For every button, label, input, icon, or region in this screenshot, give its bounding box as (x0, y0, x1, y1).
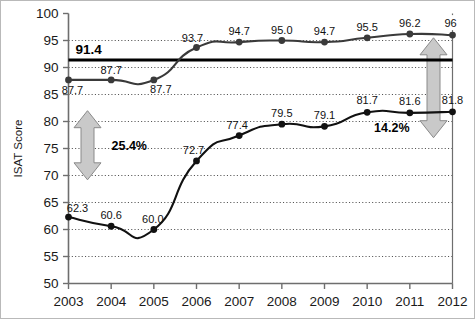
data-point (449, 108, 456, 115)
point-value-label: 96 (444, 17, 456, 29)
data-point (150, 226, 157, 233)
point-value-label: 60.6 (100, 209, 121, 221)
x-axis-tick-label: 2010 (352, 294, 382, 309)
x-axis-tick-label: 2007 (224, 294, 254, 309)
point-value-label: 77.4 (226, 119, 247, 131)
point-value-label: 95.0 (271, 24, 292, 36)
data-point (321, 123, 328, 130)
point-value-label: 96.2 (399, 17, 420, 29)
data-point (364, 34, 371, 41)
data-point (406, 109, 413, 116)
y-axis-tick-label: 65 (43, 195, 58, 210)
point-value-label: 94.7 (314, 25, 335, 37)
data-point (193, 44, 200, 51)
point-value-label: 62.3 (67, 202, 88, 214)
y-axis-tick-label: 85 (43, 87, 58, 102)
point-value-label: 87.7 (62, 84, 83, 96)
point-value-label: 87.7 (150, 83, 171, 95)
data-point (236, 39, 243, 46)
data-point (449, 32, 456, 39)
y-axis-tick-label: 75 (43, 141, 58, 156)
point-value-label: 87.7 (100, 64, 121, 76)
y-axis-tick-label: 100 (36, 6, 59, 21)
x-axis-tick-label: 2009 (309, 294, 339, 309)
y-axis-tick-label: 70 (43, 168, 58, 183)
x-axis-tick-label: 2012 (437, 294, 467, 309)
x-axis-tick-label: 2003 (53, 294, 83, 309)
y-axis-tick-label: 90 (43, 60, 58, 75)
point-value-label: 79.1 (314, 109, 335, 121)
point-value-label: 81.7 (356, 94, 377, 106)
x-axis-tick-label: 2008 (267, 294, 297, 309)
data-point (364, 109, 371, 116)
data-point (108, 223, 115, 230)
point-value-label: 81.6 (399, 95, 420, 107)
x-axis-tick-label: 2005 (139, 294, 169, 309)
data-point (236, 132, 243, 139)
y-axis-tick-label: 95 (43, 33, 58, 48)
data-point (193, 158, 200, 165)
data-point (65, 214, 72, 221)
data-point (278, 37, 285, 44)
chart-container: 25.4%14.2% 91.4 87.787.787.793.794.795.0… (0, 0, 475, 319)
y-axis-title: ISAT Score (12, 120, 24, 178)
x-axis-tick-label: 2006 (181, 294, 211, 309)
data-point (65, 77, 72, 84)
reference-line-label: 91.4 (76, 42, 103, 57)
data-point (108, 77, 115, 84)
point-value-label: 93.7 (182, 32, 203, 44)
data-point (278, 121, 285, 128)
point-value-label: 95.5 (356, 21, 377, 33)
x-axis-tick-label: 2011 (395, 294, 424, 309)
point-value-label: 94.7 (228, 25, 249, 37)
y-axis-tick-label: 80 (43, 114, 58, 129)
reference-line-label-group: 91.4 (73, 41, 113, 58)
data-point (321, 39, 328, 46)
gap-percent-label: 25.4% (112, 139, 147, 153)
point-value-label: 60.0 (142, 213, 163, 225)
y-axis-tick-label: 55 (43, 249, 58, 264)
x-axis-tick-label: 2004 (96, 294, 127, 309)
gap-percent-label: 14.2% (374, 121, 409, 135)
data-point (406, 31, 413, 38)
y-axis-tick-label: 60 (43, 222, 58, 237)
y-axis-tick-label: 50 (43, 276, 58, 291)
point-value-label: 72.7 (183, 144, 204, 156)
isat-score-line-chart: 25.4%14.2% 91.4 87.787.787.793.794.795.0… (0, 0, 475, 319)
point-value-label: 79.5 (271, 107, 292, 119)
image-border (1, 1, 475, 319)
point-label-group: 96 (435, 15, 459, 30)
point-value-label: 81.8 (442, 94, 463, 106)
